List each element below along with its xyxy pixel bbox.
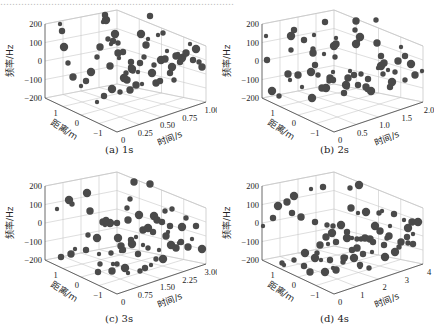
z-tick-label: 100	[246, 38, 259, 48]
data-point	[356, 33, 364, 41]
data-point	[261, 224, 265, 228]
data-point	[146, 180, 153, 187]
data-point	[108, 85, 116, 93]
data-point	[351, 72, 357, 78]
data-point	[378, 53, 384, 59]
svg-text:频率/Hz: 频率/Hz	[221, 44, 232, 77]
data-point	[306, 268, 313, 275]
z-tick-label: −100	[241, 237, 259, 247]
data-point	[309, 187, 313, 191]
data-point	[134, 235, 138, 239]
data-point	[140, 82, 144, 86]
data-point	[161, 55, 168, 62]
data-point	[102, 16, 110, 24]
svg-text:1.0: 1.0	[379, 120, 390, 130]
data-point	[60, 43, 68, 51]
data-point	[407, 60, 415, 68]
data-point	[117, 56, 121, 60]
data-point	[394, 57, 401, 64]
data-point	[193, 223, 199, 229]
data-point	[350, 254, 358, 262]
data-point	[145, 245, 150, 250]
data-point	[287, 32, 295, 40]
z-tick-label: 200	[246, 181, 259, 191]
data-point	[130, 178, 137, 185]
data-point	[192, 45, 200, 53]
data-point	[95, 100, 99, 104]
data-point	[331, 266, 335, 270]
svg-text:0.50: 0.50	[160, 120, 175, 130]
data-point	[414, 218, 422, 226]
scatter3d-c: 2001000−100−20010−100.751.502.253.00频率/H…	[0, 168, 217, 328]
data-point	[392, 69, 397, 74]
svg-text:0: 0	[121, 297, 125, 307]
data-point	[126, 271, 130, 275]
data-point	[301, 37, 307, 43]
data-point	[330, 223, 335, 228]
data-point	[135, 251, 141, 257]
data-point	[362, 208, 370, 216]
data-point	[160, 30, 165, 35]
data-point	[326, 242, 330, 246]
z-tick-label: 100	[246, 200, 259, 210]
data-point	[288, 78, 292, 82]
scatter3d-a: 2001000−100−20010−100.250.500.751.00频率/H…	[0, 6, 217, 166]
data-point	[123, 76, 130, 83]
z-tick-label: −100	[24, 75, 42, 85]
data-point	[108, 267, 115, 274]
data-point	[399, 45, 403, 49]
caption-c: (c) 3s	[105, 313, 133, 324]
data-point	[322, 84, 330, 92]
data-point	[165, 49, 169, 53]
data-point	[137, 30, 145, 38]
svg-text:−1: −1	[94, 290, 103, 300]
data-point	[332, 40, 339, 47]
data-point	[402, 53, 408, 59]
data-point	[397, 238, 404, 245]
data-point	[331, 70, 335, 74]
data-point	[366, 265, 371, 270]
data-point	[147, 13, 153, 19]
svg-text:1.5: 1.5	[401, 113, 412, 123]
data-point	[55, 207, 59, 211]
caption-a: (a) 1s	[105, 144, 133, 155]
data-point	[83, 247, 89, 253]
data-point	[411, 71, 418, 78]
data-point	[312, 33, 316, 37]
z-tick-label: 200	[29, 19, 42, 29]
data-point	[380, 71, 385, 76]
data-point	[264, 34, 268, 38]
data-point	[65, 60, 70, 65]
data-point	[410, 241, 416, 247]
z-tick-label: −200	[24, 255, 42, 265]
panel-b: 2001000−100−20010−100.51.01.52.0频率/Hz距离/…	[217, 6, 434, 166]
data-point	[149, 263, 153, 267]
data-point	[128, 59, 134, 65]
svg-text:频率/Hz: 频率/Hz	[4, 44, 15, 77]
z-tick-label: 0	[255, 218, 259, 228]
data-point	[114, 220, 120, 226]
data-point	[348, 69, 352, 73]
z-tick-label: −100	[24, 237, 42, 247]
data-point	[120, 247, 126, 253]
data-point	[172, 244, 179, 251]
data-point	[264, 57, 270, 63]
data-point	[178, 223, 186, 231]
data-point	[321, 268, 329, 276]
data-point	[308, 94, 316, 102]
data-point	[289, 210, 295, 216]
data-point	[96, 43, 103, 50]
data-point	[294, 71, 301, 78]
svg-text:−1: −1	[311, 128, 320, 138]
data-point	[198, 63, 205, 70]
panel-d: 2001000−100−20010−101234频率/Hz距离/m时间/s (d…	[217, 168, 434, 328]
data-point	[157, 248, 161, 252]
data-point	[183, 215, 188, 220]
z-tick-label: 0	[38, 56, 42, 66]
data-point	[353, 244, 360, 251]
panel-c: 2001000−100−20010−100.751.502.253.00频率/H…	[0, 168, 217, 328]
svg-text:0: 0	[338, 297, 342, 307]
data-point	[373, 17, 378, 22]
data-point	[159, 255, 167, 263]
data-point	[110, 38, 116, 44]
